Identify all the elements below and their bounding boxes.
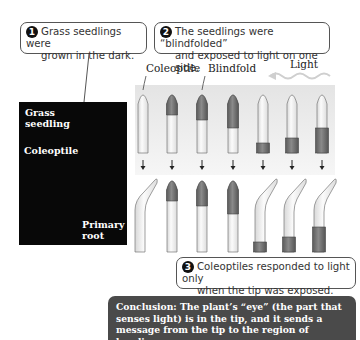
conclusion-line3: message from the tip to the region of be… bbox=[116, 324, 350, 340]
seedling-after-base-covered-small bbox=[254, 179, 278, 252]
seedling-before-control bbox=[138, 95, 148, 153]
base-blindfold bbox=[316, 128, 329, 153]
tip-blindfold bbox=[197, 181, 208, 206]
tip-blindfold bbox=[228, 181, 239, 214]
photo-title: Grass seedling bbox=[25, 107, 70, 129]
seedling-after-base-covered-large bbox=[313, 179, 337, 252]
base-blindfold bbox=[283, 237, 296, 252]
base-blindfold bbox=[286, 138, 299, 153]
step-1-number-badge: 1 bbox=[26, 26, 38, 38]
step-2-callout: 2The seedlings were “blindfolded” and ex… bbox=[154, 22, 330, 54]
base-blindfold bbox=[254, 242, 267, 252]
tip-blindfold bbox=[197, 95, 208, 120]
coleoptile-label: Coleoptile bbox=[146, 62, 200, 74]
seedling-after-tip-covered-medium bbox=[197, 181, 208, 252]
step-2-text-line1: The seedlings were “blindfolded” bbox=[160, 26, 273, 49]
grass-seedling-photo: Grass seedling Coleoptile Primary root bbox=[19, 102, 127, 245]
step-3-text-line1: Coleoptiles responded to light only bbox=[182, 261, 350, 284]
light-label: Light bbox=[290, 58, 318, 70]
step-3-number-badge: 3 bbox=[182, 261, 194, 273]
step-1-callout: 1Grass seedlings were grown in the dark. bbox=[20, 22, 147, 54]
step-2-number-badge: 2 bbox=[160, 26, 172, 38]
photo-root-line2: root bbox=[82, 230, 125, 241]
tip-blindfold bbox=[228, 95, 239, 128]
base-blindfold bbox=[313, 227, 326, 252]
blindfold-label: Blindfold bbox=[208, 62, 256, 74]
seedling-before-base-covered-large bbox=[316, 95, 329, 153]
seedling-after-control bbox=[135, 179, 157, 252]
seedling-after-tip-covered-small bbox=[167, 181, 178, 252]
seedling-before-base-covered-small bbox=[257, 95, 270, 153]
seedling-before-base-covered-medium bbox=[286, 95, 299, 153]
conclusion-line1: Conclusion: The plant’s “eye” (the part … bbox=[116, 301, 350, 313]
seedling-after-base-covered-medium bbox=[283, 179, 307, 252]
photo-title-line2: seedling bbox=[25, 118, 70, 129]
step-1-text-line2: grown in the dark. bbox=[26, 50, 142, 62]
seedling-before-tip-covered-large bbox=[228, 95, 239, 153]
photo-coleoptile-label: Coleoptile bbox=[24, 145, 78, 156]
conclusion-line2: senses light) is in the tip, and it send… bbox=[116, 313, 350, 325]
conclusion-box: Conclusion: The plant’s “eye” (the part … bbox=[108, 296, 356, 340]
photo-root-label: Primary root bbox=[82, 219, 125, 241]
step-3-callout: 3Coleoptiles responded to light only whe… bbox=[176, 257, 356, 289]
seedlings-after bbox=[135, 179, 336, 252]
light-wave-icon bbox=[270, 74, 330, 79]
seedling-after-tip-covered-large bbox=[228, 181, 239, 252]
step-1-text-line1: Grass seedlings were bbox=[26, 26, 121, 49]
tip-blindfold bbox=[167, 181, 178, 201]
seedling-before-tip-covered-small bbox=[167, 95, 178, 153]
seedling-before-tip-covered-medium bbox=[197, 95, 208, 153]
photo-title-line1: Grass bbox=[25, 107, 70, 118]
photo-root-line1: Primary bbox=[82, 219, 125, 230]
base-blindfold bbox=[257, 143, 270, 153]
